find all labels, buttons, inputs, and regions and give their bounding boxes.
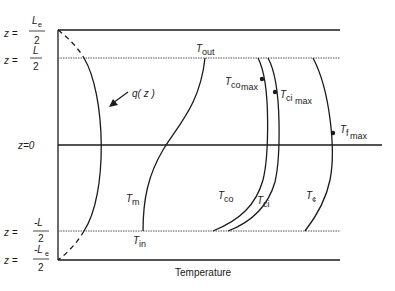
svg-text:z =: z =: [3, 55, 18, 66]
svg-text:f: f: [346, 128, 349, 138]
svg-text:m: m: [132, 197, 140, 207]
svg-text:-L: -L: [34, 217, 43, 228]
tout-label: T out: [196, 43, 215, 57]
z-label-le-half: z = L e 2: [3, 15, 45, 46]
q-curve-dashed-bottom: [58, 231, 84, 260]
z-label-minus-le-half: z = -L e 2: [3, 244, 49, 273]
svg-text:L: L: [33, 45, 39, 56]
svg-text:2: 2: [38, 262, 44, 273]
tf-max-label: T f max: [340, 124, 368, 141]
tci-label: T ci: [257, 195, 270, 209]
q-arrow-line: [113, 92, 128, 103]
svg-text:e: e: [38, 21, 42, 28]
tcl-label: T ¢: [306, 190, 316, 204]
svg-text:L: L: [32, 15, 38, 26]
q-label: q( z ): [132, 88, 155, 99]
svg-text:co: co: [224, 194, 234, 204]
tf-max-point: [331, 131, 335, 135]
svg-text:max: max: [295, 96, 313, 106]
svg-text:in: in: [139, 239, 146, 249]
z-label-minus-l-half: z = -L 2: [3, 217, 49, 244]
z-label-zero: z=0: [17, 140, 35, 151]
svg-text:¢: ¢: [312, 195, 316, 204]
svg-text:e: e: [45, 250, 49, 257]
temperature-profile-diagram: z = L e 2 z = L 2 z=0 z = -L 2 z = -L e …: [0, 0, 395, 291]
svg-text:z =: z =: [3, 255, 18, 266]
svg-text:ci: ci: [263, 199, 270, 209]
svg-text:max: max: [350, 131, 368, 141]
svg-text:-L: -L: [34, 244, 43, 255]
svg-text:z =: z =: [3, 227, 18, 238]
z-label-l-half: z = L 2: [3, 45, 42, 72]
svg-text:max: max: [241, 82, 259, 92]
tco-max-point: [260, 77, 264, 81]
tco-label: T co: [218, 190, 234, 204]
tm-label: T m: [126, 193, 140, 207]
svg-text:2: 2: [33, 61, 39, 72]
x-axis-label: Temperature: [175, 267, 232, 278]
q-curve-dashed-top: [58, 30, 84, 58]
svg-text:z =: z =: [3, 28, 18, 39]
tco-max-label: T co max: [225, 76, 259, 92]
tci-max-point: [273, 90, 277, 94]
tin-label: T in: [133, 235, 146, 249]
svg-text:co: co: [231, 80, 241, 90]
svg-text:out: out: [202, 47, 215, 57]
tci-max-label: T ci max: [280, 89, 313, 106]
svg-text:ci: ci: [286, 93, 293, 103]
svg-text:2: 2: [38, 233, 44, 244]
